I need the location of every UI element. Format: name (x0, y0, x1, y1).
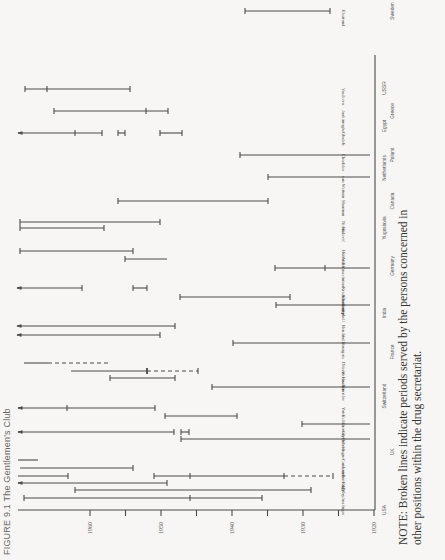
person-label: Yates (341, 407, 346, 417)
person-label: Sharman (341, 200, 346, 217)
country-label: Canada (390, 192, 395, 209)
person-label: Ditzert (341, 362, 346, 375)
country-label: Germany (390, 256, 395, 276)
timeline-bars (17, 8, 370, 501)
person-label: Renier (341, 325, 346, 338)
axis-tick-label: 1940 (229, 522, 235, 534)
person-label: Chodzko (341, 154, 346, 171)
person-bar (110, 375, 175, 381)
country-label: Netherlands (382, 154, 387, 180)
figure-title: FIGURE 9.1 The Gentlemen's Club (2, 408, 12, 555)
note-line-2: other positions within the drug secretar… (410, 210, 424, 545)
person-bar (18, 130, 182, 136)
person-bar (302, 421, 370, 427)
person-bar (18, 429, 189, 435)
person-label: Hüttisch (341, 250, 346, 266)
country-label: USA (382, 504, 387, 515)
person-label: Ekstrand (341, 10, 346, 27)
country-labels: USAUKSwitzerlandFranceIndiaGermanyYugosl… (382, 2, 395, 515)
country-label: Poland (390, 147, 395, 162)
country-label: Yugoslavia (382, 216, 387, 240)
person-bar (125, 256, 167, 262)
country-label: France (390, 344, 395, 359)
person-bar (20, 465, 133, 471)
person-bar (118, 198, 268, 204)
person-bar (268, 174, 370, 180)
person-bar (75, 487, 311, 493)
axis-tick-label: 1920 (371, 522, 377, 534)
figure-note: NOTE: Broken lines indicate periods serv… (396, 210, 424, 545)
country-label: Egypt (382, 119, 387, 132)
person-bar (276, 302, 370, 308)
country-label: India (382, 307, 387, 318)
person-labels: AnslingerMayEddySnivingLandeCameronDelev… (341, 10, 346, 516)
person-bar (17, 285, 147, 291)
person-label: van Wettum (341, 176, 346, 199)
person-bar (18, 473, 333, 479)
person-bar (18, 405, 155, 411)
person-bar (17, 323, 175, 329)
person-bar (24, 495, 262, 501)
country-label: UK (390, 448, 395, 455)
axis-tick-label: 1960 (87, 522, 93, 534)
axis-ticks: 19601950194019301920 (87, 510, 377, 534)
person-bar (20, 219, 160, 225)
person-bar (275, 265, 370, 271)
country-label: Greece (390, 103, 395, 119)
country-label: USSR (382, 81, 387, 95)
person-bar (245, 8, 330, 14)
person-label: Cameron (341, 459, 346, 477)
person-label: Anslinger (341, 497, 346, 516)
person-bar (25, 86, 130, 92)
person-bar (240, 152, 370, 158)
person-bar (17, 332, 160, 338)
person-bar (180, 294, 290, 300)
person-bar (165, 413, 237, 419)
country-label: Sweden (390, 2, 395, 20)
person-bar (54, 108, 168, 114)
person-label: Anselmino (341, 267, 346, 288)
person-bar (71, 368, 198, 374)
timeline-chart: 19601950194019301920 USAUKSwitzerlandFra… (0, 0, 445, 560)
country-label: Switzerland (382, 383, 387, 408)
person-label: Vasilieva (341, 88, 346, 105)
person-label: Krishnamoorty (341, 287, 346, 316)
person-label: Ghaleb (341, 132, 346, 146)
axis-tick-label: 1930 (300, 522, 306, 534)
axis-tick-label: 1950 (158, 522, 164, 534)
person-bar (233, 340, 370, 346)
person-label: Kušević (341, 227, 346, 242)
person-bar (18, 480, 167, 486)
year-axis (18, 55, 375, 510)
note-line-1: NOTE: Broken lines indicate periods serv… (396, 210, 410, 545)
person-label: Joakimoglu (341, 110, 346, 132)
person-bar (20, 225, 104, 231)
person-bar (20, 248, 133, 254)
